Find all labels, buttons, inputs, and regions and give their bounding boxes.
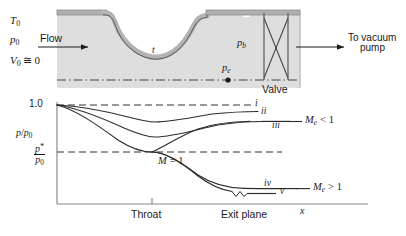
curve-label-v: v [280, 187, 284, 197]
exit-pressure-tap-dot [225, 77, 230, 82]
curve-iii [57, 105, 262, 137]
chamber-fill [207, 17, 300, 88]
annotation-subsonic-exit: Me< 1 [305, 115, 334, 126]
y-axis-label: p/p0 [16, 128, 32, 140]
x-axis-label: x [300, 206, 304, 216]
y-tick-sonic-pressure: p* p0 [34, 142, 45, 168]
label-p0: p0 [10, 34, 19, 47]
chamber-top-wall [206, 10, 300, 15]
y-tick-1.0: 1.0 [29, 99, 43, 109]
curve-label-i: i [255, 99, 258, 109]
curve-label-iv: iv [264, 179, 271, 189]
label-valve: Valve [262, 84, 288, 95]
curve-label-iii: iii [272, 121, 280, 131]
label-V0: V0≅ 0 [10, 55, 40, 68]
inlet-top-wall [57, 10, 107, 15]
shock-zigzag [232, 192, 247, 197]
nozzle-schematic [38, 10, 344, 88]
x-tick-throat: Throat [131, 209, 161, 220]
annotation-sonic: M= 1 [158, 156, 184, 167]
label-flow: Flow [40, 33, 62, 44]
annotation-supersonic-exit: Me> 1 [313, 182, 342, 193]
figure-root: T0 p0 V0≅ 0 Flow t pe pb Valve To vacuum… [0, 0, 406, 236]
curve-iv [57, 105, 280, 189]
label-vacuum-pump: To vacuum pump [348, 33, 396, 53]
curve-shock-recovery-branch [152, 121, 250, 152]
curve-label-ii: ii [261, 107, 266, 117]
label-exit-pressure: pe [222, 63, 231, 74]
vacuum-pump-arrow [296, 44, 344, 50]
x-tick-exit-plane: Exit plane [221, 209, 267, 220]
label-back-pressure: pb [237, 38, 246, 49]
label-T0: T0 [10, 15, 20, 28]
label-throat-t: t [152, 46, 155, 56]
